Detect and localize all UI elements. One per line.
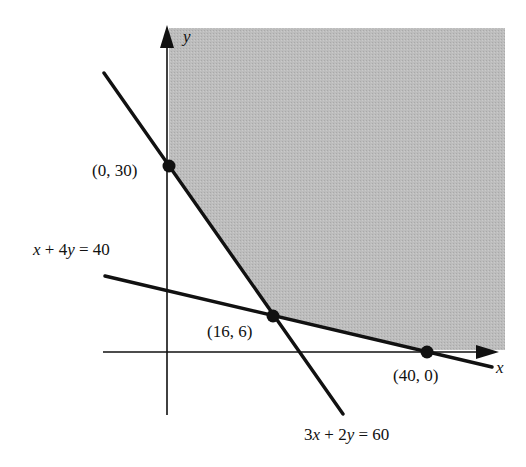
vertex-label-0-30: (0, 30)	[92, 161, 137, 180]
equation-label-3x-2y-60: 3x + 2y = 60	[304, 425, 389, 444]
vertex-label-16-6: (16, 6)	[207, 322, 252, 341]
equation-label-x-4y-40: x + 4y = 40	[32, 240, 110, 259]
x-axis-label: x	[495, 358, 504, 377]
vertex-label-40-0: (40, 0)	[393, 366, 438, 385]
y-axis-label: y	[181, 27, 191, 46]
vertex-point-40-0	[421, 346, 434, 359]
vertex-point-16-6	[267, 310, 280, 323]
vertex-point-0-30	[163, 160, 176, 173]
feasible-region-diagram: y x (0, 30) (16, 6) (40, 0) x + 4y = 40 …	[0, 0, 526, 467]
